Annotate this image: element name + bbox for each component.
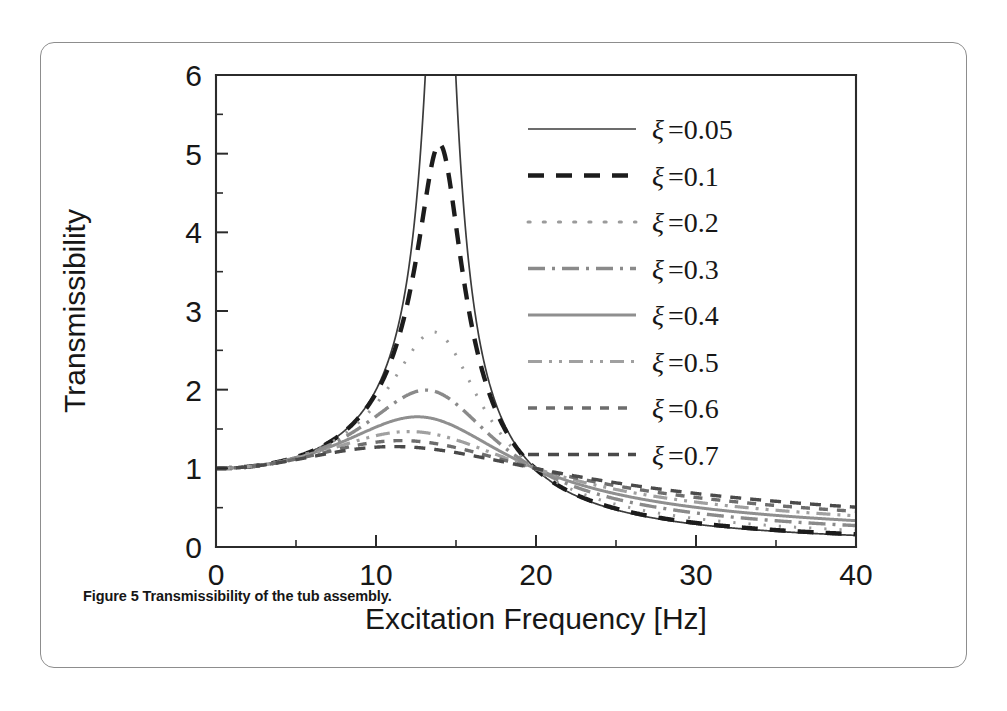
legend-label-xi-0.2: ξ=0.2 <box>652 207 719 238</box>
chart-legend: ξ=0.05ξ=0.1ξ=0.2ξ=0.3ξ=0.4ξ=0.5ξ=0.6ξ=0.… <box>528 114 733 471</box>
xi-value: =0.6 <box>668 393 719 424</box>
xi-symbol: ξ <box>652 114 664 145</box>
y-axis-title: Transmissibility <box>58 209 91 413</box>
xi-symbol: ξ <box>652 440 664 471</box>
y-tick-label: 1 <box>185 452 202 485</box>
curve-xi-0.3 <box>216 390 856 525</box>
figure-panel: 0123456 010203040 Transmissibility Excit… <box>40 42 967 668</box>
xi-value: =0.7 <box>668 440 719 471</box>
x-tick-label: 20 <box>519 558 552 591</box>
xi-symbol: ξ <box>652 161 664 192</box>
y-tick-label: 6 <box>185 59 202 92</box>
curve-group <box>216 43 856 535</box>
xi-value: =0.5 <box>668 347 719 378</box>
y-tick-label: 0 <box>185 531 202 564</box>
xi-symbol: ξ <box>652 207 664 238</box>
figure-caption-label: Figure 5 <box>83 588 139 604</box>
y-tick-label: 2 <box>185 374 202 407</box>
legend-label-xi-0.4: ξ=0.4 <box>652 300 719 331</box>
xi-value: =0.05 <box>668 114 733 145</box>
xi-value: =0.1 <box>668 161 719 192</box>
x-tick-label: 30 <box>679 558 712 591</box>
xi-value: =0.2 <box>668 207 719 238</box>
y-tick-label: 3 <box>185 295 202 328</box>
y-tick-label: 4 <box>185 216 202 249</box>
figure-caption-text: Transmissibility of the tub assembly. <box>143 588 392 604</box>
y-axis-tick-labels: 0123456 <box>185 59 202 564</box>
curve-xi-0.05 <box>216 43 856 535</box>
x-axis-ticks <box>216 535 856 547</box>
y-tick-label: 5 <box>185 138 202 171</box>
xi-symbol: ξ <box>652 254 664 285</box>
legend-label-xi-0.1: ξ=0.1 <box>652 161 719 192</box>
curve-xi-0.1 <box>216 144 856 534</box>
x-axis-tick-labels: 010203040 <box>208 558 873 591</box>
transmissibility-chart: 0123456 010203040 Transmissibility Excit… <box>41 43 968 669</box>
x-tick-label: 10 <box>359 558 392 591</box>
chart-plot-area: 0123456 010203040 Transmissibility Excit… <box>41 43 968 669</box>
curve-xi-0.5 <box>216 432 856 516</box>
figure-caption: Figure 5 Transmissibility of the tub ass… <box>83 588 392 604</box>
x-axis-title: Excitation Frequency [Hz] <box>365 602 707 635</box>
xi-symbol: ξ <box>652 347 664 378</box>
legend-label-xi-0.3: ξ=0.3 <box>652 254 719 285</box>
legend-label-xi-0.05: ξ=0.05 <box>652 114 733 145</box>
legend-label-xi-0.5: ξ=0.5 <box>652 347 719 378</box>
xi-value: =0.4 <box>668 300 719 331</box>
x-tick-label: 0 <box>208 558 225 591</box>
axis-frame <box>216 75 856 547</box>
legend-label-xi-0.7: ξ=0.7 <box>652 440 719 471</box>
xi-symbol: ξ <box>652 393 664 424</box>
x-tick-label: 40 <box>839 558 872 591</box>
xi-symbol: ξ <box>652 300 664 331</box>
y-axis-ticks <box>216 75 228 547</box>
xi-value: =0.3 <box>668 254 719 285</box>
legend-label-xi-0.6: ξ=0.6 <box>652 393 719 424</box>
